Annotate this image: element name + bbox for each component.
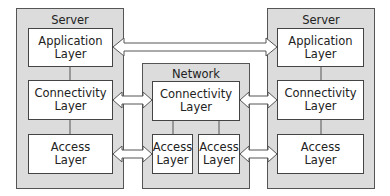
left-connectivity-layer: Connectivity Layer — [28, 80, 113, 120]
right-access-layer: Access Layer — [277, 134, 364, 174]
left-application-layer: Application Layer — [28, 28, 113, 67]
layer-architecture-diagram: Server Application Layer Connectivity La… — [0, 0, 390, 196]
right-access-arrow-icon — [240, 146, 277, 162]
network-access-layer-left: Access Layer — [152, 134, 193, 174]
network-connectivity-layer: Connectivity Layer — [152, 81, 240, 121]
network-access-layer-right: Access Layer — [198, 134, 240, 174]
left-connectivity-arrow-icon — [113, 92, 152, 108]
left-access-layer: Access Layer — [28, 134, 113, 174]
right-application-layer: Application Layer — [277, 28, 364, 67]
application-arrow-icon — [113, 38, 277, 56]
right-connectivity-layer: Connectivity Layer — [277, 80, 364, 120]
right-connectivity-arrow-icon — [240, 92, 277, 108]
left-access-arrow-icon — [113, 146, 152, 162]
